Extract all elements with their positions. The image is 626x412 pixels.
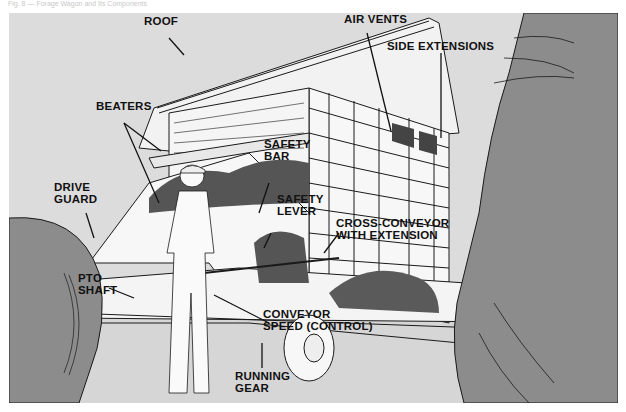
label-drive-guard: DRIVE GUARD xyxy=(54,181,97,205)
label-safety-lever: SAFETY LEVER xyxy=(277,193,324,217)
label-side-extensions: SIDE EXTENSIONS xyxy=(387,40,494,52)
forage-conveyor xyxy=(254,232,309,283)
label-pto-shaft: PTO SHAFT xyxy=(78,272,117,296)
label-safety-bar: SAFETY BAR xyxy=(264,138,311,162)
label-conveyor-speed: CONVEYOR SPEED (CONTROL) xyxy=(263,308,373,332)
label-beaters: BEATERS xyxy=(96,100,152,112)
figure-caption: Fig. 8 — Forage Wagon and Its Components xyxy=(8,0,147,7)
tractor-tire-left xyxy=(9,218,102,403)
label-cross-conveyor: CROSS-CONVEYOR WITH EXTENSION xyxy=(336,217,449,241)
label-air-vents: AIR VENTS xyxy=(344,13,407,25)
tractor-tire-right xyxy=(454,13,618,403)
illustration-frame: ROOF AIR VENTS SIDE EXTENSIONS BEATERS S… xyxy=(9,13,618,403)
label-running-gear: RUNNING GEAR xyxy=(235,370,290,394)
label-roof: ROOF xyxy=(144,15,178,27)
